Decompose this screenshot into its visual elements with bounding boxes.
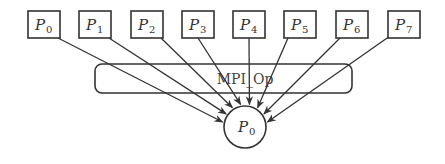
reduce-diagram: MPI_Op P0P1P2P3P4P5P6P7 P0 (0, 0, 445, 164)
source-processes: P0P1P2P3P4P5P6P7 (28, 11, 420, 38)
source-process-0: P0 (28, 11, 60, 38)
source-process-4: P4 (233, 11, 265, 38)
arrow-6 (264, 38, 340, 114)
arrow-0 (58, 38, 223, 122)
source-process-6: P6 (336, 11, 368, 38)
arrow-1 (109, 38, 226, 114)
source-process-5: P5 (284, 11, 316, 38)
source-process-7: P7 (388, 11, 420, 38)
source-process-1: P1 (79, 11, 111, 38)
source-process-2: P2 (131, 11, 163, 38)
target-process: P0 (224, 106, 266, 148)
source-process-3: P3 (182, 11, 214, 38)
arrows (58, 36, 390, 122)
